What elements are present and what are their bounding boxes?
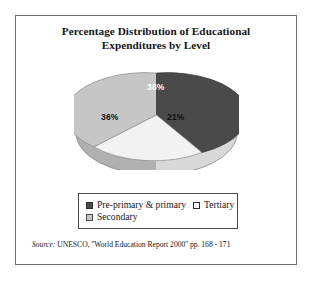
chart-figure-frame: Percentage Distribution of Educational E…: [15, 15, 297, 265]
legend-label-secondary: Secondary: [97, 211, 138, 223]
legend-label-tertiary: Tertiary: [204, 199, 234, 211]
chart-legend: Pre-primary & primary Tertiary Secondary: [78, 193, 238, 229]
pie-chart-svg: [74, 60, 239, 170]
legend-swatch-icon-secondary: [86, 214, 93, 221]
legend-row-1: Pre-primary & primary Tertiary: [86, 199, 231, 211]
legend-row-2: Secondary: [86, 211, 231, 223]
pie-label-tertiary: 21%: [167, 112, 185, 122]
pie-label-secondary: 36%: [101, 112, 119, 122]
legend-swatch-icon-tertiary: [193, 202, 200, 209]
chart-source-note: Source: UNESCO, ''World Education Report…: [32, 240, 230, 249]
legend-label-pre-primary-and-primary: Pre-primary & primary: [97, 199, 186, 211]
chart-title-line-2: Expenditures by Level: [16, 39, 296, 53]
source-label: Source:: [32, 240, 55, 249]
legend-swatch-icon-pre-primary-and-primary: [86, 202, 93, 209]
pie-chart: 38% 36% 21%: [74, 60, 239, 170]
source-citation: UNESCO, ''World Education Report 2000'' …: [57, 240, 230, 249]
pie-label-pre-primary-and-primary: 38%: [147, 82, 165, 92]
legend-item-secondary: Secondary: [86, 211, 138, 223]
legend-item-pre-primary-and-primary: Pre-primary & primary: [86, 199, 186, 211]
legend-item-tertiary: Tertiary: [193, 199, 234, 211]
chart-title-line-1: Percentage Distribution of Educational: [16, 25, 296, 39]
chart-title: Percentage Distribution of Educational E…: [16, 25, 296, 52]
